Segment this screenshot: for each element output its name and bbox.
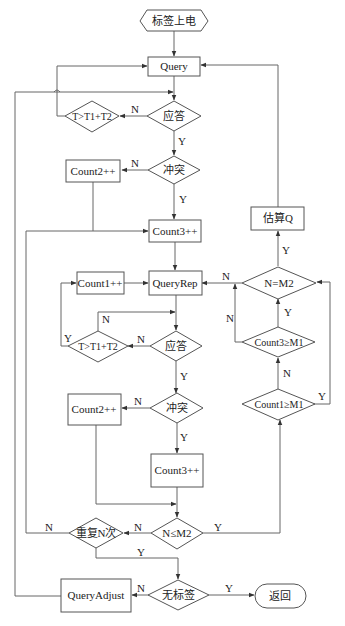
node-ack1-label: 应答 xyxy=(163,109,185,122)
node-count3-b: Count3++ xyxy=(151,454,203,487)
node-collision1-label: 冲突 xyxy=(163,163,185,176)
label-n-eq-m2-n: N xyxy=(222,270,230,282)
node-timeout2: T>T1+T2 xyxy=(68,331,128,362)
node-count2-a: Count2++ xyxy=(66,160,120,182)
node-count1: Count1++ xyxy=(77,272,124,294)
node-count3-ge-m1-label: Count3≥M1 xyxy=(255,337,304,348)
node-n-eq-m2-label: N=M2 xyxy=(264,277,293,289)
node-count3-b-label: Count3++ xyxy=(155,464,200,476)
node-count3-ge-m1: Count3≥M1 xyxy=(242,327,315,357)
edge-count3gem1-queryrep xyxy=(235,284,242,342)
node-ack2-label: 应答 xyxy=(165,339,187,352)
node-return: 返回 xyxy=(255,584,306,608)
node-collision2-label: 冲突 xyxy=(166,401,188,414)
node-count1-label: Count1++ xyxy=(78,277,123,289)
label-ack2-y: Y xyxy=(180,370,188,382)
node-count2-b: Count2++ xyxy=(68,394,121,425)
node-collision2: 冲突 xyxy=(150,393,203,423)
node-return-label: 返回 xyxy=(269,590,291,602)
label-no-tag-n: N xyxy=(137,582,145,594)
node-ack2: 应答 xyxy=(150,331,202,361)
label-n-le-m2-y: Y xyxy=(214,521,222,533)
label-collision1-y: Y xyxy=(179,193,187,205)
node-query-adjust: QueryAdjust xyxy=(61,579,131,612)
label-timeout2-n: N xyxy=(102,313,110,325)
node-estimate-q: 估算Q xyxy=(251,207,304,230)
node-count2-a-label: Count2++ xyxy=(71,165,116,177)
label-ack2-n: N xyxy=(137,333,145,345)
label-count3-ge-m1-n: N xyxy=(226,312,234,324)
node-timeout1-label: T>T1+T2 xyxy=(72,111,112,122)
edge-nlem2-count1gem1 xyxy=(203,420,280,533)
node-query: Query xyxy=(148,57,200,76)
label-ack1-y: Y xyxy=(178,135,186,147)
node-count1-ge-m1: Count1≥M1 xyxy=(242,389,315,420)
node-count2-b-label: Count2++ xyxy=(72,403,117,415)
node-start-label: 标签上电 xyxy=(152,14,196,27)
label-collision2-n: N xyxy=(134,395,142,407)
label-count3-ge-m1-y: Y xyxy=(284,306,292,318)
edge-count2a-count3a xyxy=(93,182,148,231)
label-repeat-n-y: Y xyxy=(137,546,145,558)
node-count3-a-label: Count3++ xyxy=(153,225,198,237)
node-ack1: 应答 xyxy=(147,101,201,131)
label-no-tag-y: Y xyxy=(225,582,233,594)
node-timeout1: T>T1+T2 xyxy=(65,101,119,132)
label-count1-ge-m1-y: Y xyxy=(318,390,326,402)
label-ack1-n: N xyxy=(131,103,139,115)
node-query-rep-label: QueryRep xyxy=(152,277,198,289)
edge-estimateq-query xyxy=(201,65,278,207)
label-collision2-y: Y xyxy=(180,431,188,443)
label-timeout2-y: Y xyxy=(64,332,72,344)
node-no-tag-label: 无标签 xyxy=(162,588,195,601)
node-no-tag: 无标签 xyxy=(148,580,209,610)
node-repeat-n: 重复N次 xyxy=(69,518,123,548)
node-query-label: Query xyxy=(160,60,188,72)
node-count1-ge-m1-label: Count1≥M1 xyxy=(255,399,304,410)
node-n-le-m2-label: N≤M2 xyxy=(162,527,191,539)
node-query-rep: QueryRep xyxy=(149,271,202,295)
node-estimate-q-label: 估算Q xyxy=(263,211,293,224)
node-n-eq-m2: N=M2 xyxy=(242,267,316,299)
edge-count1gem1-neqm2 xyxy=(314,282,330,404)
label-repeat-n-n: N xyxy=(45,521,53,533)
node-repeat-n-label: 重复N次 xyxy=(76,526,117,539)
flowchart: 标签上电 Query 应答 T>T1+T2 冲突 Count2++ Count3… xyxy=(0,0,345,626)
node-count3-a: Count3++ xyxy=(149,220,201,242)
label-n-le-m2-n: N xyxy=(134,521,142,533)
label-collision1-n: N xyxy=(131,157,139,169)
label-estimate-y: Y xyxy=(282,244,290,256)
node-timeout2-label: T>T1+T2 xyxy=(78,341,118,352)
label-count1-ge-m1-n: N xyxy=(283,367,291,379)
node-start: 标签上电 xyxy=(140,10,208,31)
node-n-le-m2: N≤M2 xyxy=(151,518,203,549)
node-query-adjust-label: QueryAdjust xyxy=(68,589,125,601)
node-collision1: 冲突 xyxy=(148,156,200,184)
